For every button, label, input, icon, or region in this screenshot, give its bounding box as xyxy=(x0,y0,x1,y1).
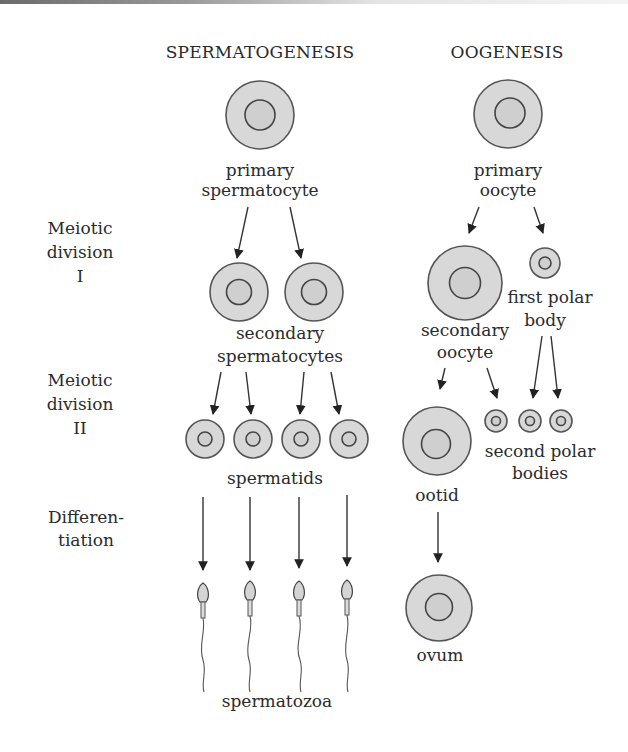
second-polar-body-3 xyxy=(550,410,572,432)
spermatozoon-1 xyxy=(198,583,209,692)
second-polar-body-2 xyxy=(519,410,541,432)
spermatid-2 xyxy=(234,420,272,458)
spermatozoon-4 xyxy=(342,580,353,692)
spermatid-1 xyxy=(186,420,224,458)
stage-label-meiosis-2: Meiotic division II xyxy=(47,370,114,438)
label-first-polar-body-2: body xyxy=(524,310,566,330)
label-secondary-spermatocytes-1: secondary xyxy=(236,323,325,343)
label-second-polar-bodies-1: second polar xyxy=(485,441,596,461)
second-polar-body-1 xyxy=(485,410,507,432)
svg-text:I: I xyxy=(77,266,84,286)
ootid xyxy=(403,407,471,475)
title-oogenesis: OOGENESIS xyxy=(451,42,564,62)
arrows-meiosis-1-sperm xyxy=(237,207,301,258)
label-secondary-oocyte-1: secondary xyxy=(421,320,510,340)
label-ootid: ootid xyxy=(415,485,459,505)
svg-text:Meiotic: Meiotic xyxy=(48,218,113,238)
label-primary-oocyte-1: primary xyxy=(474,160,543,180)
arrows-differentiation xyxy=(203,495,347,570)
primary-spermatocyte xyxy=(226,81,294,149)
ovum xyxy=(406,575,472,641)
label-ovum: ovum xyxy=(417,645,464,665)
spermatid-3 xyxy=(282,420,320,458)
secondary-spermatocyte-2 xyxy=(285,263,343,321)
svg-text:II: II xyxy=(73,418,86,438)
title-spermatogenesis: SPERMATOGENESIS xyxy=(166,42,355,62)
svg-text:division: division xyxy=(47,242,114,262)
svg-text:tiation: tiation xyxy=(58,530,114,550)
label-spermatids: spermatids xyxy=(227,468,323,488)
stage-label-differentiation: Differen- tiation xyxy=(48,507,124,550)
first-polar-body xyxy=(530,248,560,278)
spermatid-4 xyxy=(330,420,368,458)
label-secondary-oocyte-2: oocyte xyxy=(437,342,494,362)
primary-oocyte xyxy=(474,80,542,148)
label-primary-spermatocyte-2: spermatocyte xyxy=(201,180,318,200)
stage-label-meiosis-1: Meiotic division I xyxy=(47,218,114,286)
spermatozoon-2 xyxy=(245,581,256,692)
gametogenesis-diagram: SPERMATOGENESIS OOGENESIS Meiotic divisi… xyxy=(0,0,628,752)
label-spermatozoa: spermatozoa xyxy=(222,691,332,711)
label-secondary-spermatocytes-2: spermatocytes xyxy=(217,346,343,366)
label-primary-oocyte-2: oocyte xyxy=(480,180,537,200)
svg-text:division: division xyxy=(47,394,114,414)
arrows-meiosis-1-egg xyxy=(469,207,543,233)
svg-text:Differen-: Differen- xyxy=(48,507,124,527)
secondary-oocyte xyxy=(428,246,502,320)
spermatozoon-3 xyxy=(294,581,305,692)
label-primary-spermatocyte-1: primary xyxy=(226,160,295,180)
label-first-polar-body-1: first polar xyxy=(507,287,593,307)
svg-text:Meiotic: Meiotic xyxy=(48,370,113,390)
secondary-spermatocyte-1 xyxy=(210,263,268,321)
label-second-polar-bodies-2: bodies xyxy=(512,463,568,483)
arrows-meiosis-2-sperm xyxy=(213,372,339,414)
